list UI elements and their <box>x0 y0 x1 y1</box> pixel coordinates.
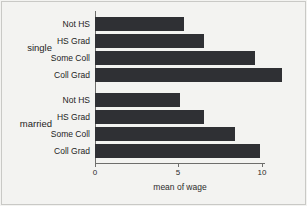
bar-married-hs-grad <box>95 110 204 124</box>
bar-single-hs-grad <box>95 34 204 48</box>
group-label-single: single <box>27 42 52 53</box>
bar-category-label: HS Grad <box>57 36 90 46</box>
bar-category-label: Some Coll <box>51 129 90 139</box>
x-axis-line <box>95 163 265 164</box>
bar-married-not-hs <box>95 93 180 107</box>
bar-married-coll-grad <box>95 144 260 158</box>
x-tick-label-5: 5 <box>176 168 180 177</box>
bar-category-label: Some Coll <box>51 53 90 63</box>
group-label-married: married <box>20 118 52 129</box>
plot-area: Not HS HS Grad Some Coll Coll Grad Not H… <box>95 12 291 162</box>
bar-category-label: HS Grad <box>57 112 90 122</box>
x-tick-mark-0 <box>95 163 96 167</box>
x-tick-label-10: 10 <box>258 168 267 177</box>
bar-single-not-hs <box>95 17 184 31</box>
x-tick-label-0: 0 <box>93 168 97 177</box>
bar-category-label: Not HS <box>63 95 90 105</box>
x-axis-title: mean of wage <box>95 182 265 192</box>
bar-single-some-coll <box>95 51 255 65</box>
bar-married-some-coll <box>95 127 235 141</box>
x-tick-mark-5 <box>178 163 179 167</box>
bar-category-label: Coll Grad <box>54 70 90 80</box>
bar-category-label: Coll Grad <box>54 146 90 156</box>
bar-single-coll-grad <box>95 68 282 82</box>
chart-screenshot: single married 0 5 10 mean of wage Not H… <box>0 0 307 206</box>
bar-category-label: Not HS <box>63 19 90 29</box>
x-tick-mark-10 <box>262 163 263 167</box>
